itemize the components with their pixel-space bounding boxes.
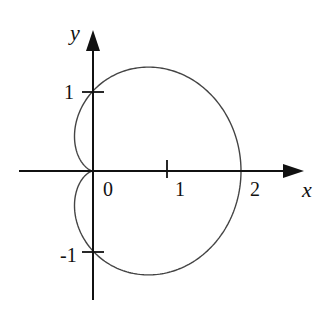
origin-label: 0	[103, 178, 113, 200]
cardioid-diagram: y x 0 1 2 1 -1	[0, 0, 329, 315]
y-tick-label-1: 1	[64, 81, 74, 103]
x-axis-arrow-icon	[283, 164, 304, 178]
x-tick-label-2: 2	[250, 178, 260, 200]
y-axis-arrow-icon	[86, 30, 100, 51]
x-tick-label-1: 1	[175, 178, 185, 200]
y-tick-label-minus-1: -1	[60, 244, 77, 266]
y-axis-label: y	[68, 20, 80, 45]
x-axis-label: x	[301, 177, 312, 202]
